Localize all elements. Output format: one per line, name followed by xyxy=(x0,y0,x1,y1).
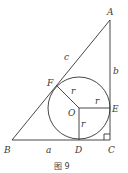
label-e-point: E xyxy=(111,104,119,114)
label-radius-od: r xyxy=(81,119,86,129)
radius-of xyxy=(57,86,79,108)
label-d-point: D xyxy=(74,145,82,155)
label-a-vertex: A xyxy=(106,7,114,17)
label-radius-of: r xyxy=(71,86,76,96)
label-o-center: O xyxy=(68,108,76,118)
triangle-abc xyxy=(12,20,110,140)
label-b-vertex: B xyxy=(3,145,11,155)
incircle-diagram: A B C D E F O a b c r r r 图 9 xyxy=(0,0,128,173)
label-f-point: F xyxy=(46,78,54,88)
figure-caption: 图 9 xyxy=(54,162,70,171)
right-angle-mark xyxy=(104,134,110,140)
label-side-b: b xyxy=(113,66,119,76)
label-c-vertex: C xyxy=(108,145,115,155)
label-side-a: a xyxy=(46,145,51,155)
label-radius-oe: r xyxy=(95,96,100,106)
label-side-c: c xyxy=(64,52,69,62)
